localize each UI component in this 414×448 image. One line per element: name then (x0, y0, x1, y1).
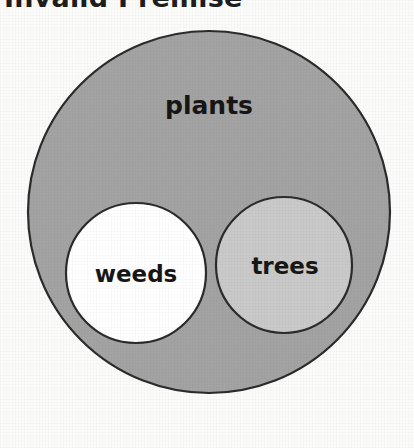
page-title: Invalid Premise (4, 0, 243, 13)
set-label-weeds: weeds (95, 261, 178, 287)
diagram-page: Invalid Premise plants weeds trees (0, 0, 414, 448)
set-label-trees: trees (251, 253, 318, 279)
set-label-plants: plants (165, 91, 253, 120)
euler-diagram: plants weeds trees (0, 0, 414, 448)
set-circle-plants[interactable] (28, 31, 390, 393)
page-title-clip: Invalid Premise (0, 0, 414, 16)
